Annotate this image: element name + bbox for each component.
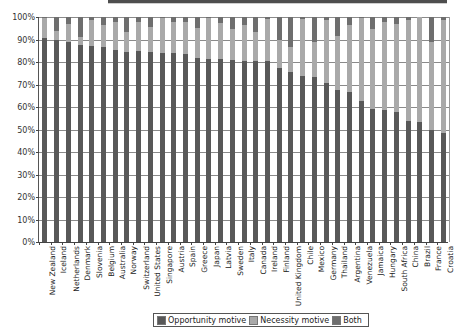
bar-segment (429, 130, 434, 242)
bar-segment (394, 17, 399, 24)
bar-germany (324, 17, 329, 242)
legend-label: Opportunity motive (168, 316, 246, 325)
bar-segment (124, 17, 129, 32)
bar-segment (171, 53, 176, 242)
bar-segment (277, 68, 282, 242)
y-tick-label: 40% (17, 148, 35, 157)
bar-segment (54, 31, 59, 40)
x-tick-label-wrap: Denmark (73, 246, 85, 316)
y-tick-label: 70% (17, 80, 35, 89)
bar-ireland (265, 17, 270, 242)
x-tick-label-wrap: Germany (319, 246, 331, 316)
bar-segment (312, 42, 317, 77)
y-tick (36, 130, 39, 131)
bar-segment (89, 46, 94, 242)
bar-croatia (441, 17, 446, 242)
y-tick (36, 17, 39, 18)
x-tick-label-wrap: Spain (178, 246, 190, 316)
x-tick-label-wrap: Japan (202, 246, 214, 316)
y-tick (36, 175, 39, 176)
bar-segment (183, 22, 188, 54)
bar-south-africa (394, 17, 399, 242)
bar-netherlands (66, 17, 71, 242)
bar-segment (370, 29, 375, 109)
y-tick-label: 0% (22, 238, 35, 247)
bar-spain (183, 17, 188, 242)
x-tick-label-wrap: Ireland (260, 246, 272, 316)
bar-brazil (417, 17, 422, 242)
bar-segment (277, 40, 282, 68)
bar-segment (441, 20, 446, 133)
bar-italy (242, 17, 247, 242)
bar-segment (300, 76, 305, 242)
bar-segment (394, 24, 399, 112)
bar-segment (171, 22, 176, 54)
bar-hungary (382, 17, 387, 242)
bar-segment (218, 23, 223, 59)
x-tick-label-wrap: Hungary (378, 246, 390, 316)
bar-segment (124, 52, 129, 242)
y-tick-label: 20% (17, 193, 35, 202)
y-tick-label: 60% (17, 103, 35, 112)
x-tick-label-wrap: Argentina (342, 246, 354, 316)
bar-segment (183, 54, 188, 242)
bar-chile (300, 17, 305, 242)
bar-segment (406, 121, 411, 242)
bar-segment (206, 18, 211, 59)
x-tick-label-wrap: China (401, 246, 413, 316)
bar-greece (195, 17, 200, 242)
bar-segment (195, 58, 200, 242)
bar-latvia (218, 17, 223, 242)
bar-segment (382, 22, 387, 110)
bar-segment (160, 53, 165, 242)
x-tick-label-wrap: Sweden (225, 246, 237, 316)
x-tick-label-wrap: United Kingdom (284, 246, 296, 316)
bar-segment (277, 17, 282, 40)
bar-segment (265, 61, 270, 242)
bar-segment (230, 29, 235, 60)
bar-iceland (54, 17, 59, 242)
x-tick-label: Croatia (446, 246, 455, 273)
bar-jamaica (370, 17, 375, 242)
y-tick-label: 100% (12, 13, 35, 22)
bar-segment (288, 47, 293, 72)
x-tick-label-wrap: New Zealand (38, 246, 50, 316)
bar-segment (230, 60, 235, 242)
bar-segment (66, 42, 71, 242)
bar-segment (160, 18, 165, 54)
bar-segment (66, 24, 71, 42)
bar-segment (347, 25, 352, 92)
bar-segment (242, 61, 247, 242)
bar-japan (206, 17, 211, 242)
x-tick-label-wrap: Belgium (96, 246, 108, 316)
legend: Opportunity motive Necessity motive Both (153, 313, 369, 327)
bar-segment (324, 20, 329, 83)
x-tick-label-wrap: Slovenia (85, 246, 97, 316)
x-tick-label-wrap: Singapore (155, 246, 167, 316)
bar-segment (148, 17, 153, 27)
bar-segment (136, 22, 141, 51)
bar-thailand (335, 17, 340, 242)
bar-segment (347, 17, 352, 25)
y-tick (36, 40, 39, 41)
y-tick (36, 62, 39, 63)
bar-segment (148, 27, 153, 53)
bar-segment (78, 45, 83, 242)
bar-segment (335, 90, 340, 242)
bar-segment (359, 101, 364, 242)
bar-segment (300, 19, 305, 75)
x-tick-label-wrap: Mexico (307, 246, 319, 316)
x-tick-label-wrap: South Africa (389, 246, 401, 316)
bar-segment (101, 47, 106, 242)
x-tick-label-wrap: Thailand (331, 246, 343, 316)
bar-australia (113, 17, 118, 242)
x-tick-label-wrap: Venezuela (354, 246, 366, 316)
bar-segment (429, 17, 434, 42)
y-tick-label: 10% (17, 215, 35, 224)
x-tick-label-wrap: Austria (167, 246, 179, 316)
legend-label: Both (343, 316, 362, 325)
legend-item-necessity: Necessity motive (249, 316, 329, 325)
bar-segment (230, 17, 235, 29)
bar-finland (277, 17, 282, 242)
bar-norway (124, 17, 129, 242)
